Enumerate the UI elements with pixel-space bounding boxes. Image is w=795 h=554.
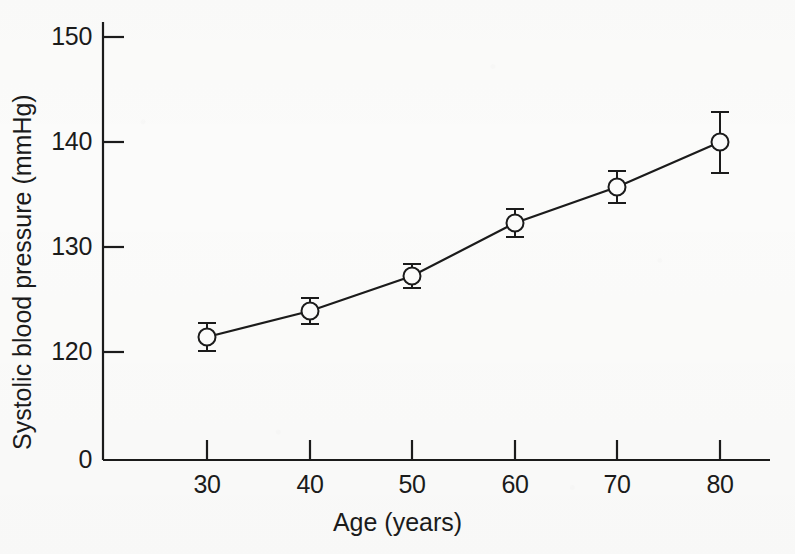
data-point-markers — [199, 134, 729, 346]
x-axis-title: Age (years) — [0, 508, 795, 537]
data-series-systolic — [198, 112, 729, 351]
series-line — [207, 142, 720, 337]
x-tick-label-40: 40 — [270, 470, 350, 499]
error-bars — [198, 112, 729, 351]
y-axis-title: Systolic blood pressure (mmHg) — [8, 94, 37, 450]
y-axis-ticks — [103, 37, 124, 352]
data-point-age-60 — [507, 215, 524, 232]
axis-lines — [103, 22, 770, 460]
data-point-age-70 — [609, 179, 626, 196]
y-tick-label-150: 150 — [20, 22, 92, 51]
x-tick-label-50: 50 — [372, 470, 452, 499]
data-point-age-50 — [404, 268, 421, 285]
data-point-age-40 — [302, 303, 319, 320]
data-point-age-30 — [199, 329, 216, 346]
x-tick-label-80: 80 — [680, 470, 760, 499]
x-tick-label-70: 70 — [577, 470, 657, 499]
x-axis-ticks — [207, 440, 720, 460]
x-tick-label-30: 30 — [167, 470, 247, 499]
x-tick-label-60: 60 — [475, 470, 555, 499]
chart-figure: 150 140 130 120 0 30 40 50 60 70 80 Age … — [0, 0, 795, 554]
data-point-age-80 — [712, 134, 729, 151]
